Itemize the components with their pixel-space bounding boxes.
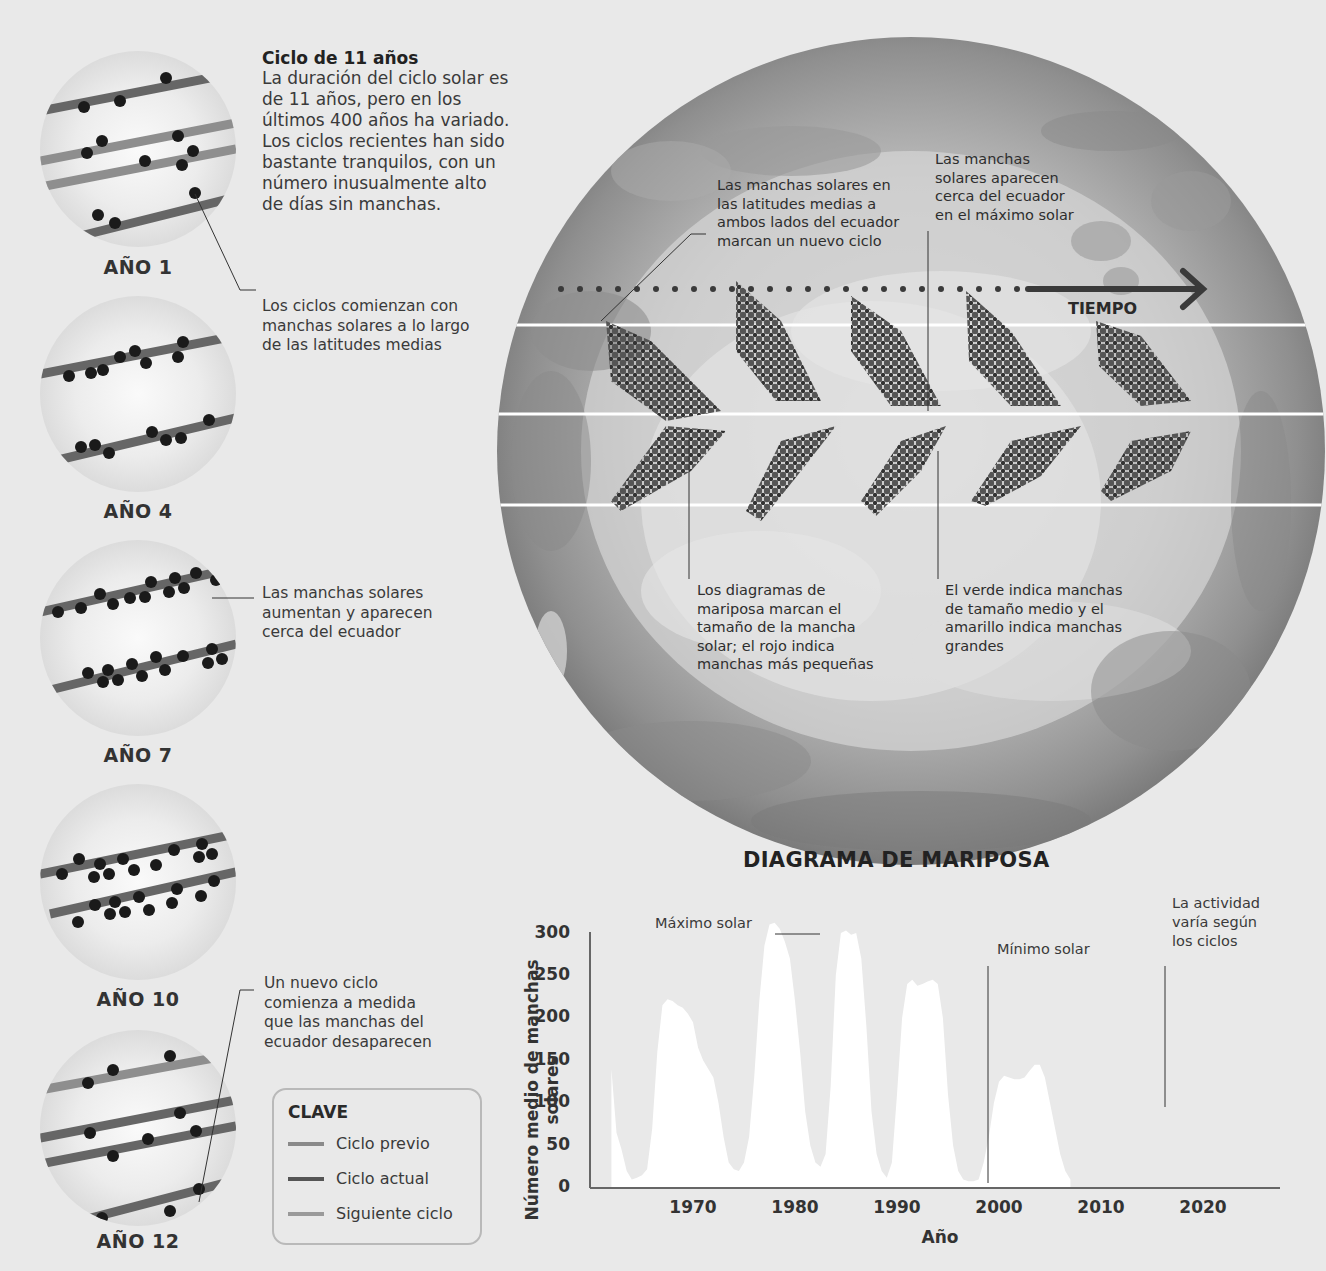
- legend-swatch-next: [288, 1212, 324, 1216]
- x-tick: 2010: [1071, 1197, 1131, 1217]
- sun-globe: [491, 31, 1326, 871]
- y-tick: 0: [530, 1176, 570, 1196]
- x-tick: 1970: [663, 1197, 723, 1217]
- mini-globe-year-7: [40, 540, 236, 736]
- time-label: TIEMPO: [1068, 299, 1137, 318]
- band-pattern-year-7: [40, 540, 236, 736]
- legend-box: CLAVE Ciclo previo Ciclo actual Siguient…: [272, 1088, 482, 1245]
- legend-swatch-previous: [288, 1142, 324, 1146]
- note-new-cycle: Un nuevo ciclo comienza a medida que las…: [264, 974, 432, 1052]
- mini-globe-year-10: [40, 784, 236, 980]
- legend-item-previous-cycle: Ciclo previo: [288, 1134, 430, 1153]
- x-tick: 1980: [765, 1197, 825, 1217]
- globe-note-green-yellow: El verde indica manchas de tamaño medio …: [945, 581, 1122, 655]
- x-tick: 1990: [867, 1197, 927, 1217]
- mini-globe-year-12: [40, 1030, 236, 1226]
- legend-swatch-current: [288, 1177, 324, 1181]
- x-axis-label: Año: [900, 1227, 980, 1247]
- year-label-4: AÑO 4: [40, 500, 236, 522]
- note-spots-increase: Las manchas solares aumentan y aparecen …: [262, 584, 433, 643]
- y-tick: 100: [530, 1091, 570, 1111]
- year-label-1: AÑO 1: [40, 256, 236, 278]
- y-tick: 300: [530, 922, 570, 942]
- year-label-12: AÑO 12: [40, 1230, 236, 1252]
- globe-note-butterfly-size: Los diagramas de mariposa marcan el tama…: [697, 581, 874, 674]
- band-pattern-year-4: [40, 296, 236, 492]
- sunspot-area-chart: [580, 920, 1300, 1200]
- legend-title: CLAVE: [288, 1102, 348, 1122]
- globe-note-mid-latitudes: Las manchas solares en las latitudes med…: [717, 176, 899, 250]
- mini-globe-year-1: [40, 51, 236, 247]
- chart-title: DIAGRAMA DE MARIPOSA: [743, 848, 1049, 872]
- y-tick: 150: [530, 1049, 570, 1069]
- x-tick: 2000: [969, 1197, 1029, 1217]
- mini-globe-year-4: [40, 296, 236, 492]
- annotation-solar-minimum: Mínimo solar: [997, 940, 1090, 959]
- band-pattern-year-1: [40, 51, 236, 247]
- legend-item-next-cycle: Siguiente ciclo: [288, 1204, 453, 1223]
- y-tick: 200: [530, 1006, 570, 1026]
- legend-item-current-cycle: Ciclo actual: [288, 1169, 429, 1188]
- year-label-7: AÑO 7: [40, 744, 236, 766]
- x-tick: 2020: [1173, 1197, 1233, 1217]
- band-pattern-year-12: [40, 1030, 236, 1226]
- annotation-activity-varies: La actividad varía según los ciclos: [1172, 894, 1260, 951]
- globe-note-near-equator: Las manchas solares aparecen cerca del e…: [935, 150, 1074, 224]
- annotation-solar-maximum: Máximo solar: [655, 914, 752, 933]
- year-label-10: AÑO 10: [40, 988, 236, 1010]
- note-cycles-start: Los ciclos comienzan con manchas solares…: [262, 297, 470, 356]
- y-tick: 250: [530, 964, 570, 984]
- sunspot-area: [611, 923, 1070, 1188]
- y-tick: 50: [530, 1134, 570, 1154]
- band-pattern-year-10: [40, 784, 236, 980]
